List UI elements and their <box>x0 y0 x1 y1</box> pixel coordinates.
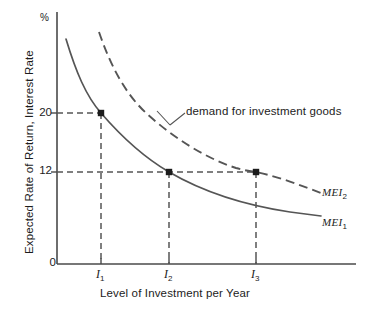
x-tick-label-i1: I1 <box>96 268 104 283</box>
y-axis-unit-label: % <box>40 13 49 23</box>
data-point-marker-a <box>98 110 104 116</box>
curve-label-mei1: MEI1 <box>322 217 347 231</box>
curve-label-mei2-sub: 2 <box>342 192 347 201</box>
data-point-marker-b <box>166 169 172 175</box>
curve-label-mei1-base: MEI <box>322 216 342 228</box>
investment-demand-chart: % 20 12 0 Expected Rate of Return, Inter… <box>0 0 367 313</box>
x-tick-label-i3-sub: 3 <box>255 274 259 283</box>
curve-mei1 <box>66 39 321 216</box>
annotation-demand-for-investment-goods: demand for investment goods <box>186 106 342 118</box>
annotation-leader-line <box>157 111 185 125</box>
curve-label-mei1-sub: 1 <box>342 222 347 231</box>
curve-label-mei2-base: MEI <box>322 186 342 198</box>
curve-label-mei2: MEI2 <box>322 187 347 201</box>
x-tick-label-i3: I3 <box>251 268 259 283</box>
x-tick-label-i2-sub: 2 <box>168 274 172 283</box>
x-axis-title: Level of Investment per Year <box>100 288 250 300</box>
data-point-marker-c <box>253 169 259 175</box>
x-tick-label-i1-sub: 1 <box>100 274 104 283</box>
y-tick-label-0: 0 <box>32 257 56 269</box>
y-axis-title: Expected Rate of Return, Interest Rate <box>24 50 36 254</box>
x-tick-label-i2: I2 <box>164 268 172 283</box>
